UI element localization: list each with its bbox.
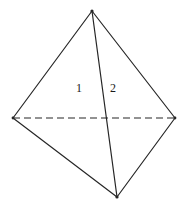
vertex-apex-dot (90, 9, 93, 12)
tetrahedron-drawing (0, 0, 186, 208)
face-label-2: 2 (110, 82, 116, 94)
vertex-right-dot (174, 117, 177, 120)
edge-apex-left (13, 11, 92, 118)
edge-left-bottom (13, 118, 117, 197)
face-label-1: 1 (76, 82, 82, 94)
edge-right-bottom (117, 118, 175, 197)
tetrahedron-figure: 1 2 (0, 0, 186, 208)
vertex-left-dot (12, 117, 15, 120)
vertex-bottom-dot (115, 195, 118, 198)
